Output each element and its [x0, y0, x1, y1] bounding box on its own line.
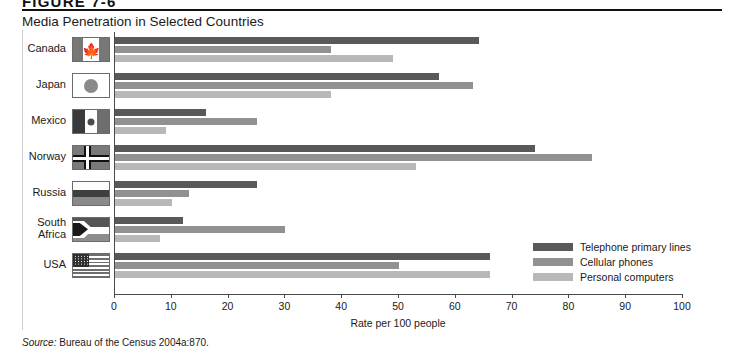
legend-label: Cellular phones	[580, 256, 653, 268]
x-axis-tick	[171, 294, 172, 298]
legend-label: Personal computers	[580, 271, 673, 283]
chart-row: Russia	[0, 180, 742, 216]
x-axis-tick	[228, 294, 229, 298]
x-axis-tick-label: 40	[335, 300, 347, 312]
bar-telephone-primary-lines	[115, 145, 535, 152]
bar-personal-computers	[115, 163, 416, 170]
x-axis-tick	[455, 294, 456, 298]
source-prefix: Source:	[22, 337, 56, 348]
country-label: South	[0, 216, 66, 228]
country-label: USA	[0, 258, 66, 270]
bar-telephone-primary-lines	[115, 37, 479, 44]
bar-personal-computers	[115, 91, 331, 98]
x-axis-tick-label: 0	[111, 300, 117, 312]
bar-cellular-phones	[115, 46, 331, 53]
usa-flag-icon	[72, 253, 110, 278]
chart-row: Canada🍁	[0, 36, 742, 72]
bar-personal-computers	[115, 55, 393, 62]
x-axis-tick	[682, 294, 683, 298]
x-axis-title: Rate per 100 people	[350, 317, 445, 329]
x-axis-tick	[625, 294, 626, 298]
bar-group	[115, 253, 490, 280]
bar-personal-computers	[115, 199, 172, 206]
legend-swatch-cellular-phones	[533, 258, 573, 266]
bar-telephone-primary-lines	[115, 181, 257, 188]
bar-telephone-primary-lines	[115, 217, 183, 224]
bar-telephone-primary-lines	[115, 109, 206, 116]
country-label: Canada	[0, 42, 66, 54]
bar-group	[115, 217, 285, 244]
bar-personal-computers	[115, 127, 166, 134]
bar-cellular-phones	[115, 226, 285, 233]
country-label: Mexico	[0, 114, 66, 126]
norway-flag-icon	[72, 145, 110, 170]
country-label-group: Norway	[0, 150, 66, 162]
bar-group	[115, 37, 479, 64]
bar-cellular-phones	[115, 190, 189, 197]
x-axis-tick-label: 80	[563, 300, 575, 312]
country-label-group: Canada	[0, 42, 66, 54]
bar-cellular-phones	[115, 82, 473, 89]
chart-row: Japan	[0, 72, 742, 108]
country-label: Japan	[0, 78, 66, 90]
legend-item-telephone-primary-lines: Telephone primary lines	[533, 241, 691, 253]
legend-label: Telephone primary lines	[580, 241, 691, 253]
chart-row: Norway	[0, 144, 742, 180]
chart-legend: Telephone primary linesCellular phonesPe…	[533, 241, 691, 286]
country-label-line2: Africa	[0, 228, 66, 240]
x-axis-tick	[568, 294, 569, 298]
bar-cellular-phones	[115, 262, 399, 269]
bar-group	[115, 181, 257, 208]
x-axis-tick	[398, 294, 399, 298]
chart-row: Mexico	[0, 108, 742, 144]
chart-plot-area: 0102030405060708090100 Rate per 100 peop…	[0, 32, 742, 297]
bar-group	[115, 109, 257, 136]
header-divider	[22, 9, 722, 11]
country-label-group: SouthAfrica	[0, 216, 66, 240]
legend-swatch-personal-computers	[533, 273, 573, 281]
bar-telephone-primary-lines	[115, 253, 490, 260]
x-axis-tick-label: 50	[392, 300, 404, 312]
x-axis-tick	[341, 294, 342, 298]
country-label: Russia	[0, 186, 66, 198]
source-text: Bureau of the Census 2004a:870.	[59, 337, 209, 348]
legend-swatch-telephone-primary-lines	[533, 243, 573, 251]
country-label-group: Mexico	[0, 114, 66, 126]
bar-telephone-primary-lines	[115, 73, 439, 80]
bar-group	[115, 73, 473, 100]
bar-personal-computers	[115, 235, 160, 242]
legend-item-personal-computers: Personal computers	[533, 271, 691, 283]
x-axis-tick	[114, 294, 115, 298]
canada-flag-icon: 🍁	[72, 37, 110, 62]
mexico-flag-icon	[72, 109, 110, 134]
bar-personal-computers	[115, 271, 490, 278]
x-axis-tick	[512, 294, 513, 298]
japan-flag-icon	[72, 73, 110, 98]
bar-cellular-phones	[115, 118, 257, 125]
x-axis-tick-label: 10	[165, 300, 177, 312]
source-note: Source: Bureau of the Census 2004a:870.	[22, 337, 209, 348]
x-axis-tick-label: 90	[619, 300, 631, 312]
country-label-group: USA	[0, 258, 66, 270]
south-africa-flag-icon	[72, 217, 110, 242]
legend-item-cellular-phones: Cellular phones	[533, 256, 691, 268]
x-axis-tick	[284, 294, 285, 298]
x-axis-tick-label: 20	[222, 300, 234, 312]
x-axis-tick-label: 100	[673, 300, 691, 312]
russia-flag-icon	[72, 181, 110, 206]
x-axis-tick-label: 60	[449, 300, 461, 312]
x-axis-tick-label: 70	[506, 300, 518, 312]
bar-cellular-phones	[115, 154, 592, 161]
country-label-group: Russia	[0, 186, 66, 198]
bar-group	[115, 145, 592, 172]
x-axis-tick-label: 30	[279, 300, 291, 312]
country-label: Norway	[0, 150, 66, 162]
country-label-group: Japan	[0, 78, 66, 90]
chart-title: Media Penetration in Selected Countries	[22, 14, 264, 29]
